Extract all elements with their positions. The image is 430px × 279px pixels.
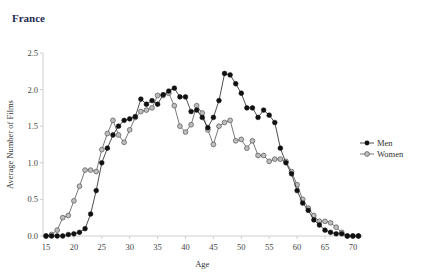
x-tick-label: 30 (125, 242, 134, 252)
x-tick-label: 25 (98, 242, 107, 252)
data-point (211, 142, 216, 147)
data-point (172, 86, 177, 91)
data-point (111, 118, 116, 123)
data-point (300, 201, 305, 206)
data-point (60, 234, 65, 239)
data-point (105, 146, 110, 151)
data-point (77, 230, 82, 235)
data-point (94, 169, 99, 174)
data-point (334, 231, 339, 236)
data-point (295, 188, 300, 193)
legend: MenWomen (360, 138, 404, 159)
data-point (228, 118, 233, 123)
data-point (233, 81, 238, 86)
data-point (183, 130, 188, 135)
x-tick-label: 35 (153, 242, 162, 252)
data-point (150, 98, 155, 103)
data-point (328, 220, 333, 225)
data-point (111, 133, 116, 138)
data-point (244, 106, 249, 111)
data-point (138, 97, 143, 102)
data-point (183, 95, 188, 100)
y-tick-label: 2.5 (27, 48, 38, 58)
data-point (261, 108, 266, 113)
data-point (328, 230, 333, 235)
data-point (127, 127, 132, 132)
data-point (250, 106, 255, 111)
x-tick-label: 45 (209, 242, 218, 252)
data-point (55, 234, 60, 239)
data-point (83, 226, 88, 231)
data-point (127, 116, 132, 121)
data-point (267, 159, 272, 164)
data-point (256, 115, 261, 120)
data-point (66, 213, 71, 218)
y-tick-label: 2.0 (27, 85, 38, 95)
y-tick-label: 1.5 (27, 121, 38, 131)
y-tick-label: 1.0 (27, 158, 38, 168)
y-axis-label: Average Number of Films (5, 100, 15, 189)
legend-item-women: Women (360, 149, 404, 159)
data-point (205, 125, 210, 130)
data-point (72, 231, 77, 236)
data-point (239, 91, 244, 96)
data-point (194, 108, 199, 113)
data-point (222, 120, 227, 125)
data-point (178, 95, 183, 100)
y-tick-label: 0.5 (27, 194, 38, 204)
data-point (138, 109, 143, 114)
data-point (144, 108, 149, 113)
data-point (150, 106, 155, 111)
data-point (339, 231, 344, 236)
data-point (267, 113, 272, 118)
data-point (189, 122, 194, 127)
data-point (88, 212, 93, 217)
data-point (155, 93, 160, 98)
data-point (278, 157, 283, 162)
legend-marker-filled-icon (365, 141, 370, 146)
data-point (133, 114, 138, 119)
data-point (144, 102, 149, 107)
data-point (122, 140, 127, 145)
data-point (356, 234, 361, 239)
data-point (211, 115, 216, 120)
data-point (99, 147, 104, 152)
data-point (250, 138, 255, 143)
data-point (351, 234, 356, 239)
data-point (116, 133, 121, 138)
data-point (189, 109, 194, 114)
data-point (155, 102, 160, 107)
x-tick-label: 55 (265, 242, 274, 252)
data-point (172, 103, 177, 108)
data-point (311, 217, 316, 222)
data-point (66, 232, 71, 237)
data-point (345, 234, 350, 239)
legend-label: Men (377, 138, 393, 148)
data-point (289, 171, 294, 176)
data-point (49, 234, 54, 239)
data-point (194, 103, 199, 108)
data-point (261, 153, 266, 158)
x-tick-label: 20 (70, 242, 79, 252)
data-point (334, 225, 339, 230)
data-point (244, 146, 249, 151)
data-point (105, 131, 110, 136)
data-point (55, 228, 60, 233)
series-layer (44, 71, 361, 238)
data-point (228, 73, 233, 78)
data-point (323, 228, 328, 233)
legend-label: Women (377, 149, 404, 159)
data-point (88, 168, 93, 173)
data-point (44, 234, 49, 239)
data-point (72, 198, 77, 203)
data-point (256, 153, 261, 158)
data-point (122, 118, 127, 123)
data-point (60, 215, 65, 220)
x-tick-label: 70 (349, 242, 358, 252)
data-point (278, 146, 283, 151)
data-point (317, 223, 322, 228)
data-point (83, 168, 88, 173)
data-point (306, 208, 311, 213)
data-point (99, 160, 104, 165)
data-point (284, 160, 289, 165)
